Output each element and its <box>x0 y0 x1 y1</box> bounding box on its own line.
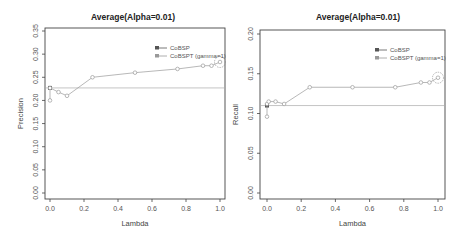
y-tick-label: 0.15 <box>32 117 39 131</box>
x-tick-label: 0.2 <box>79 205 89 212</box>
y-tick-label: 0.35 <box>32 24 39 38</box>
y-tick-label: 0.00 <box>247 186 254 200</box>
cobspt-point <box>218 60 222 64</box>
cobspt-point <box>265 115 269 119</box>
recall-chart-panel: Average(Alpha=0.01)0.000.050.100.150.200… <box>230 0 460 237</box>
recall-chart: Average(Alpha=0.01)0.000.050.100.150.200… <box>230 0 460 237</box>
cobspt-point <box>91 75 95 79</box>
cobspt-point <box>133 71 137 75</box>
y-tick-label: 0.15 <box>247 67 254 81</box>
x-tick-label: 1.0 <box>215 205 225 212</box>
cobspt-point <box>308 85 312 89</box>
x-tick-label: 0.8 <box>181 205 191 212</box>
y-tick-label: 0.10 <box>32 140 39 154</box>
x-tick-label: 0.8 <box>399 205 409 212</box>
cobspt-point <box>57 90 61 94</box>
y-tick-label: 0.30 <box>32 47 39 61</box>
legend-entry: CoBSPT (gamma=1) <box>170 53 226 59</box>
cobspt-point <box>436 76 440 80</box>
y-tick-label: 0.20 <box>32 94 39 108</box>
cobspt-line <box>267 78 438 117</box>
cobspt-point <box>210 64 214 68</box>
cobspt-point <box>65 94 69 98</box>
legend-swatch <box>155 54 159 58</box>
cobspt-point <box>48 99 52 103</box>
precision-chart: Average(Alpha=0.01)0.000.050.100.150.200… <box>0 0 230 237</box>
y-tick-label: 0.05 <box>247 146 254 160</box>
precision-chart-panel: Average(Alpha=0.01)0.000.050.100.150.200… <box>0 0 230 237</box>
y-axis-label: Recall <box>231 104 240 125</box>
cobspt-point <box>419 81 423 85</box>
cobspt-point <box>282 102 286 106</box>
chart-title: Average(Alpha=0.01) <box>316 12 400 22</box>
x-tick-label: 0.4 <box>113 205 123 212</box>
cobspt-point <box>274 100 278 104</box>
x-tick-label: 0.0 <box>262 205 272 212</box>
x-tick-label: 0.6 <box>365 205 375 212</box>
legend-swatch <box>375 56 379 60</box>
cobspt-point <box>48 86 52 90</box>
legend-entry: CoBSP <box>390 47 410 53</box>
y-tick-label: 0.20 <box>247 27 254 41</box>
cobspt-point <box>351 85 355 89</box>
x-tick-label: 0.2 <box>296 205 306 212</box>
y-tick-label: 0.00 <box>32 186 39 200</box>
x-axis-label: Lambda <box>121 219 149 228</box>
chart-title: Average(Alpha=0.01) <box>91 12 175 22</box>
cobspt-point <box>176 67 180 71</box>
y-tick-label: 0.10 <box>247 107 254 121</box>
legend-swatch <box>155 46 159 50</box>
legend-entry: CoBSP <box>170 45 190 51</box>
y-tick-label: 0.05 <box>32 163 39 177</box>
y-axis-label: Precision <box>16 98 25 129</box>
cobspt-point <box>201 64 205 68</box>
x-tick-label: 0.4 <box>331 205 341 212</box>
cobspt-point <box>267 100 271 104</box>
legend-swatch <box>375 48 379 52</box>
x-tick-label: 0.6 <box>147 205 157 212</box>
y-tick-label: 0.25 <box>32 70 39 84</box>
x-tick-label: 0.0 <box>45 205 55 212</box>
cobspt-point <box>393 85 397 89</box>
x-tick-label: 1.0 <box>433 205 443 212</box>
legend-entry: CoBSPT (gamma=1) <box>390 55 446 61</box>
cobspt-line <box>50 62 220 100</box>
cobspt-point <box>428 81 432 85</box>
x-axis-label: Lambda <box>339 219 367 228</box>
